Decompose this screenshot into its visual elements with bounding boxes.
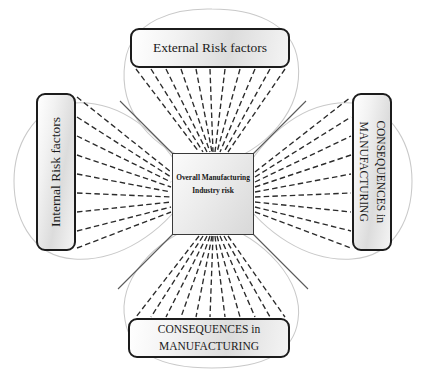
- connector-bottom-3: [166, 236, 207, 317]
- dashed-fan-left: [77, 97, 171, 248]
- node-internal-risk-factors[interactable]: Internal Risk factors: [36, 93, 76, 251]
- connector-left-2: [77, 117, 171, 177]
- node-external-risk-factors-label: External Risk factors: [153, 40, 267, 56]
- connector-right-7: [255, 202, 351, 212]
- node-internal-risk-factors-label: Internal Risk factors: [48, 117, 64, 227]
- connector-right-5: [255, 174, 351, 192]
- connector-top-8: [217, 69, 240, 152]
- connector-right-6: [255, 193, 351, 197]
- connector-left-4: [77, 155, 171, 187]
- node-consequences-bottom-line2: MANUFACTURING: [159, 340, 259, 352]
- dashed-fan-right: [255, 97, 351, 248]
- connector-right-1: [255, 97, 351, 172]
- node-consequences-manufacturing-bottom-label: CONSEQUENCES in MANUFACTURING: [158, 321, 261, 354]
- connector-bottom-4: [181, 236, 210, 317]
- node-consequences-right-line2: MANUFACTURING: [358, 122, 370, 222]
- connector-bottom-9: [220, 236, 255, 317]
- node-external-risk-factors[interactable]: External Risk factors: [130, 28, 290, 68]
- connector-left-9: [77, 212, 171, 248]
- node-consequences-right-line1: CONSEQUENCES in: [375, 121, 387, 224]
- connector-right-4: [255, 155, 351, 187]
- connector-left-6: [77, 193, 171, 197]
- connector-bottom-5: [196, 236, 212, 317]
- center-risk-square: [172, 153, 254, 235]
- connector-top-9: [220, 69, 255, 152]
- connector-top-6: [210, 69, 213, 152]
- node-consequences-manufacturing-right[interactable]: CONSEQUENCES in MANUFACTURING: [352, 93, 392, 251]
- connector-top-5: [196, 69, 212, 152]
- connector-right-2: [255, 117, 351, 177]
- connector-left-3: [77, 136, 171, 182]
- connector-bottom-6: [210, 236, 213, 317]
- connector-right-9: [255, 212, 351, 248]
- diagram-canvas: Overall Manufacturing Industry risk Exte…: [0, 0, 426, 374]
- connector-bottom-8: [217, 236, 240, 317]
- connector-top-10: [224, 69, 270, 152]
- node-consequences-manufacturing-right-label: CONSEQUENCES in MANUFACTURING: [355, 121, 388, 224]
- connector-bottom-1: [136, 236, 199, 317]
- connector-top-3: [166, 69, 207, 152]
- node-consequences-manufacturing-bottom[interactable]: CONSEQUENCES in MANUFACTURING: [128, 318, 290, 358]
- connector-top-1: [136, 69, 199, 152]
- node-consequences-bottom-line1: CONSEQUENCES in: [158, 323, 261, 335]
- connector-left-1: [77, 97, 171, 172]
- connector-left-5: [77, 174, 171, 192]
- connector-right-3: [255, 136, 351, 182]
